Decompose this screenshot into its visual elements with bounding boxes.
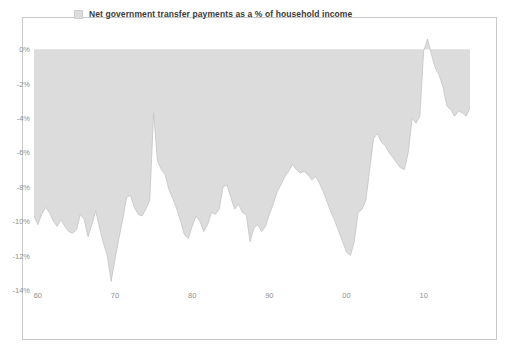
area-chart-svg [34, 32, 470, 290]
y-axis-tick-label: -14% [12, 286, 30, 295]
y-axis-tick-label: 0% [19, 45, 30, 54]
area-series-fill [34, 39, 470, 282]
y-axis-tick-labels: 0%-2%-4%-6%-8%-10%-12%-14% [0, 32, 30, 290]
x-axis-tick-label: 10 [420, 291, 428, 300]
plot-area [34, 32, 470, 290]
x-axis-tick-label: 70 [111, 291, 119, 300]
x-axis-tick-label: 60 [34, 291, 42, 300]
x-axis-tick-label: 80 [188, 291, 196, 300]
legend-swatch-icon [74, 10, 83, 19]
y-axis-tick-label: -2% [17, 79, 30, 88]
legend-label: Net government transfer payments as a % … [89, 9, 352, 19]
x-axis-tick-label: 00 [342, 291, 350, 300]
x-axis-tick-labels: 607080900010 [34, 291, 470, 307]
chart-legend: Net government transfer payments as a % … [74, 9, 352, 19]
y-axis-tick-label: -12% [12, 251, 30, 260]
y-axis-tick-label: -4% [17, 114, 30, 123]
y-axis-tick-label: -10% [12, 217, 30, 226]
y-axis-tick-label: -8% [17, 182, 30, 191]
chart-figure: Net government transfer payments as a % … [0, 0, 520, 357]
y-axis-tick-label: -6% [17, 148, 30, 157]
x-axis-tick-label: 90 [265, 291, 273, 300]
